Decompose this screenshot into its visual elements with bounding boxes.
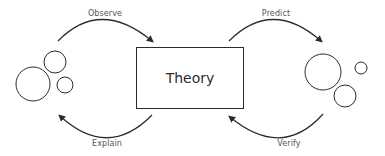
right-circle-group: [305, 54, 367, 107]
explain-arrow: [60, 115, 152, 138]
verify-arrow: [230, 114, 323, 138]
predict-arrow: [229, 20, 321, 42]
theory-box: Theory: [136, 47, 244, 109]
observe-arrow: [58, 20, 152, 42]
right-circle-medium: [334, 85, 356, 107]
predict-label: Predict: [262, 9, 290, 18]
observe-label: Observe: [88, 9, 122, 18]
theory-label: Theory: [166, 70, 215, 86]
right-circle-large: [305, 54, 341, 90]
left-circle-large: [16, 67, 50, 101]
right-circle-small: [355, 62, 367, 74]
left-circle-small: [57, 77, 73, 93]
left-circle-group: [16, 51, 73, 101]
explain-label: Explain: [92, 139, 122, 148]
verify-label: Verify: [277, 139, 300, 148]
left-circle-top: [44, 51, 66, 73]
